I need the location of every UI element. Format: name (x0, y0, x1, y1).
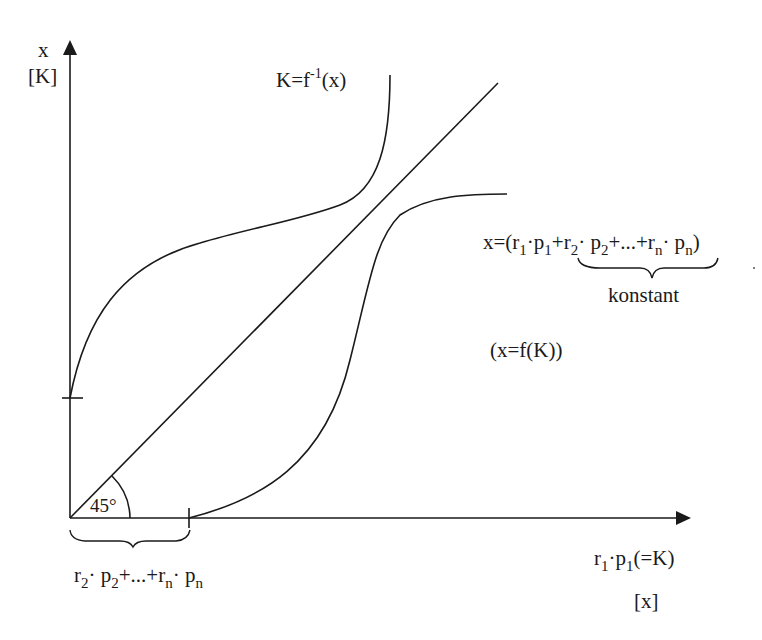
x-label-sub: 1 (626, 558, 634, 574)
formula-label: x=(r1·p1+r2· p2+...+rn· pn) (483, 232, 700, 253)
x-label-part: (=K) (634, 546, 675, 570)
formula-part: · p (578, 230, 601, 254)
formula-part: · p (662, 230, 685, 254)
formula-sub: n (685, 242, 693, 258)
x-axis-arrow-icon (676, 511, 691, 525)
inverse-label-rest: (x) (322, 68, 347, 92)
x-label-sub: 1 (601, 558, 609, 574)
y-axis-unit: [K] (28, 66, 57, 87)
sum-sub: n (195, 575, 203, 591)
inverse-function-label: K=f-1(x) (276, 70, 346, 91)
x-label-part: · (609, 546, 616, 570)
sum-part: · p (89, 563, 112, 587)
x-axis-label: r1·p1(=K) (594, 548, 675, 569)
x-label-part: p (616, 546, 627, 570)
sum-part: · p (173, 563, 196, 587)
sum-sub: n (165, 575, 173, 591)
x-label-part: r (594, 546, 601, 570)
inverse-label-sup: -1 (310, 66, 322, 81)
formula-sub: 1 (519, 242, 527, 258)
constant-label: konstant (608, 285, 679, 306)
inverse-label-main: K=f (276, 68, 310, 92)
y-axis-arrow-icon (63, 40, 77, 55)
offset-sum-label: r2· p2+...+rn· pn (74, 565, 203, 586)
formula-part: ·p (527, 230, 545, 254)
sum-sub: 2 (81, 575, 89, 591)
offset-brace (70, 530, 190, 547)
formula-part: x=(r (483, 230, 519, 254)
function-label: (x=f(K)) (490, 340, 562, 361)
stray-dot (753, 267, 755, 269)
formula-part: ) (693, 230, 700, 254)
angle-label: 45° (90, 496, 117, 515)
constant-brace (578, 258, 718, 278)
y-axis-label: x (38, 40, 49, 61)
formula-part: +r (552, 230, 571, 254)
sum-part: +...+r (119, 563, 165, 587)
sum-part: r (74, 563, 81, 587)
formula-sub: 1 (544, 242, 552, 258)
sum-sub: 2 (111, 575, 119, 591)
function-curve (189, 194, 507, 518)
formula-part: +...+r (608, 230, 654, 254)
diagram-canvas (0, 0, 762, 640)
x-axis-unit: [x] (634, 591, 659, 612)
inverse-function-curve (70, 75, 390, 398)
diagonal-45-line (70, 83, 498, 518)
